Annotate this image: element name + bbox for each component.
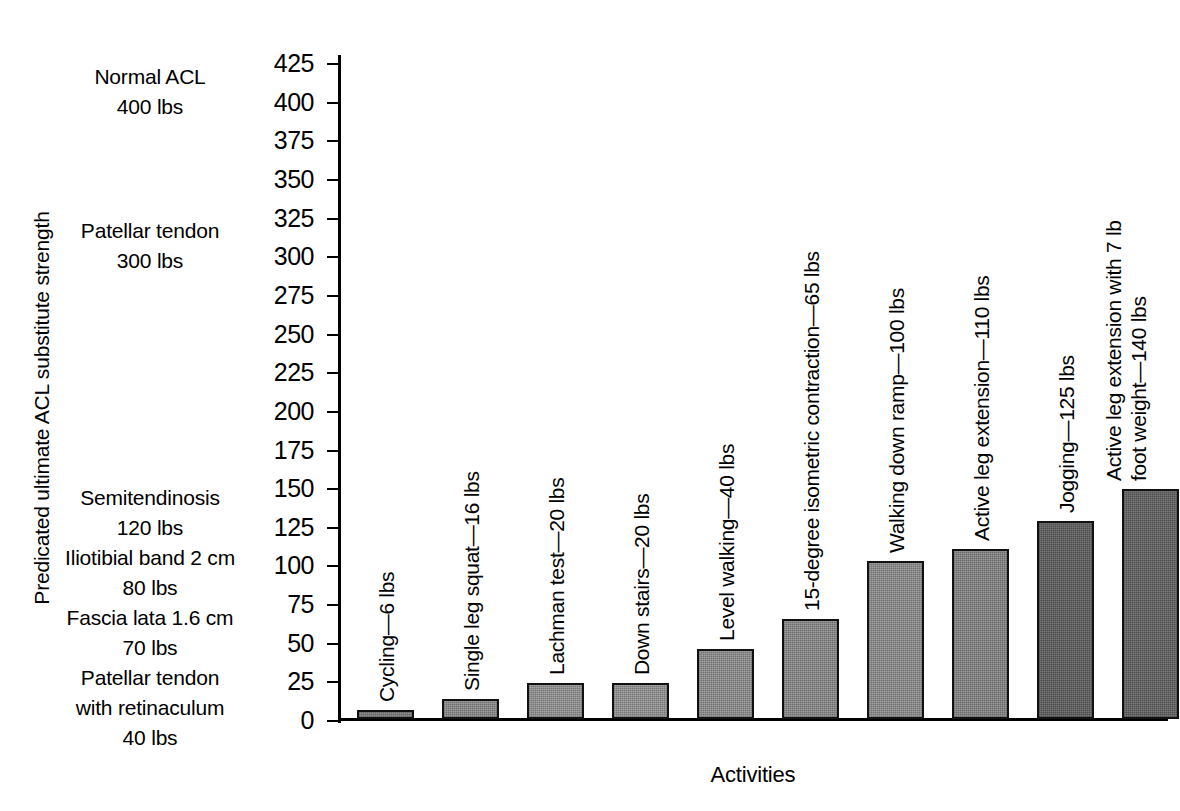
reference-annotation-fascia-lata: Fascia lata 1.6 cm 70 lbs: [0, 603, 300, 663]
y-tick-200: 200: [327, 411, 341, 413]
y-tick-400: 400: [327, 102, 341, 104]
y-tick-275: 275: [327, 295, 341, 297]
y-tick-label-150: 150: [274, 474, 314, 503]
y-tick-label-0: 0: [301, 706, 314, 735]
y-tick-375: 375: [327, 140, 341, 142]
y-tick-50: 50: [327, 643, 341, 645]
bar-lachman-test: Lachman test—20 lbs: [527, 683, 584, 719]
bar-15-degree-isometric-contraction: 15-degree isometric contraction—65 lbs: [782, 619, 839, 719]
y-tick-label-350: 350: [274, 164, 314, 193]
y-axis-line: [338, 55, 341, 723]
y-tick-300: 300: [327, 256, 341, 258]
y-tick-label-250: 250: [274, 319, 314, 348]
x-axis-title: Activities: [338, 762, 1168, 788]
bar-label-single-leg-squat: Single leg squat—16 lbs: [458, 471, 483, 691]
bar-label-active-leg-extension-7lb: Active leg extension with 7 lb foot weig…: [1101, 220, 1151, 481]
bar-label-jogging: Jogging—125 lbs: [1053, 355, 1078, 513]
bar-label-active-leg-extension: Active leg extension—110 lbs: [968, 275, 993, 541]
bar-active-leg-extension: Active leg extension—110 lbs: [952, 549, 1009, 719]
bar-label-cycling: Cycling—6 lbs: [373, 572, 398, 702]
bar-single-leg-squat: Single leg squat—16 lbs: [442, 699, 499, 719]
y-tick-425: 425: [327, 63, 341, 65]
chart-figure: Predicated ultimate ACL substitute stren…: [0, 0, 1180, 811]
reference-annotation-semitendinosis: Semitendinosis 120 lbs: [0, 483, 300, 543]
y-tick-label-400: 400: [274, 87, 314, 116]
y-tick-label-175: 175: [274, 435, 314, 464]
y-tick-75: 75: [327, 604, 341, 606]
y-tick-label-300: 300: [274, 242, 314, 271]
bar-label-level-walking: Level walking—40 lbs: [713, 444, 738, 641]
bar-down-stairs: Down stairs—20 lbs: [612, 683, 669, 719]
reference-annotation-patellar-retinaculum: Patellar tendon with retinaculum 40 lbs: [0, 663, 300, 753]
bar-jogging: Jogging—125 lbs: [1037, 521, 1094, 719]
reference-annotation-normal-acl: Normal ACL 400 lbs: [0, 62, 300, 122]
y-tick-150: 150: [327, 488, 341, 490]
bar-cycling: Cycling—6 lbs: [357, 710, 414, 719]
y-tick-label-25: 25: [287, 667, 314, 696]
bar-active-leg-extension-7lb: Active leg extension with 7 lb foot weig…: [1122, 489, 1179, 719]
y-tick-125: 125: [327, 527, 341, 529]
y-tick-175: 175: [327, 450, 341, 452]
bar-label-15-degree-isometric-contraction: 15-degree isometric contraction—65 lbs: [798, 251, 823, 611]
y-tick-25: 25: [327, 681, 341, 683]
y-tick-225: 225: [327, 372, 341, 374]
bar-label-down-stairs: Down stairs—20 lbs: [628, 494, 653, 675]
bar-label-lachman-test: Lachman test—20 lbs: [543, 478, 568, 675]
y-tick-label-275: 275: [274, 280, 314, 309]
y-tick-label-375: 375: [274, 126, 314, 155]
y-tick-label-200: 200: [274, 396, 314, 425]
y-tick-325: 325: [327, 218, 341, 220]
bar-walking-down-ramp: Walking down ramp—100 lbs: [867, 561, 924, 719]
y-tick-250: 250: [327, 334, 341, 336]
bar-label-walking-down-ramp: Walking down ramp—100 lbs: [883, 288, 908, 553]
y-tick-label-425: 425: [274, 49, 314, 78]
y-tick-label-100: 100: [274, 551, 314, 580]
bar-level-walking: Level walking—40 lbs: [697, 649, 754, 719]
y-tick-label-225: 225: [274, 358, 314, 387]
y-tick-350: 350: [327, 179, 341, 181]
reference-annotation-patellar-tendon: Patellar tendon 300 lbs: [0, 216, 300, 276]
y-tick-label-325: 325: [274, 203, 314, 232]
y-tick-label-50: 50: [287, 628, 314, 657]
y-tick-0: 0: [327, 720, 341, 722]
y-tick-label-75: 75: [287, 590, 314, 619]
y-tick-100: 100: [327, 565, 341, 567]
reference-annotation-iliotibial-band: Iliotibial band 2 cm 80 lbs: [0, 543, 300, 603]
plot-area: 425 400 375 350 325 300 275 250 225 200 …: [338, 55, 1168, 727]
y-tick-label-125: 125: [274, 512, 314, 541]
